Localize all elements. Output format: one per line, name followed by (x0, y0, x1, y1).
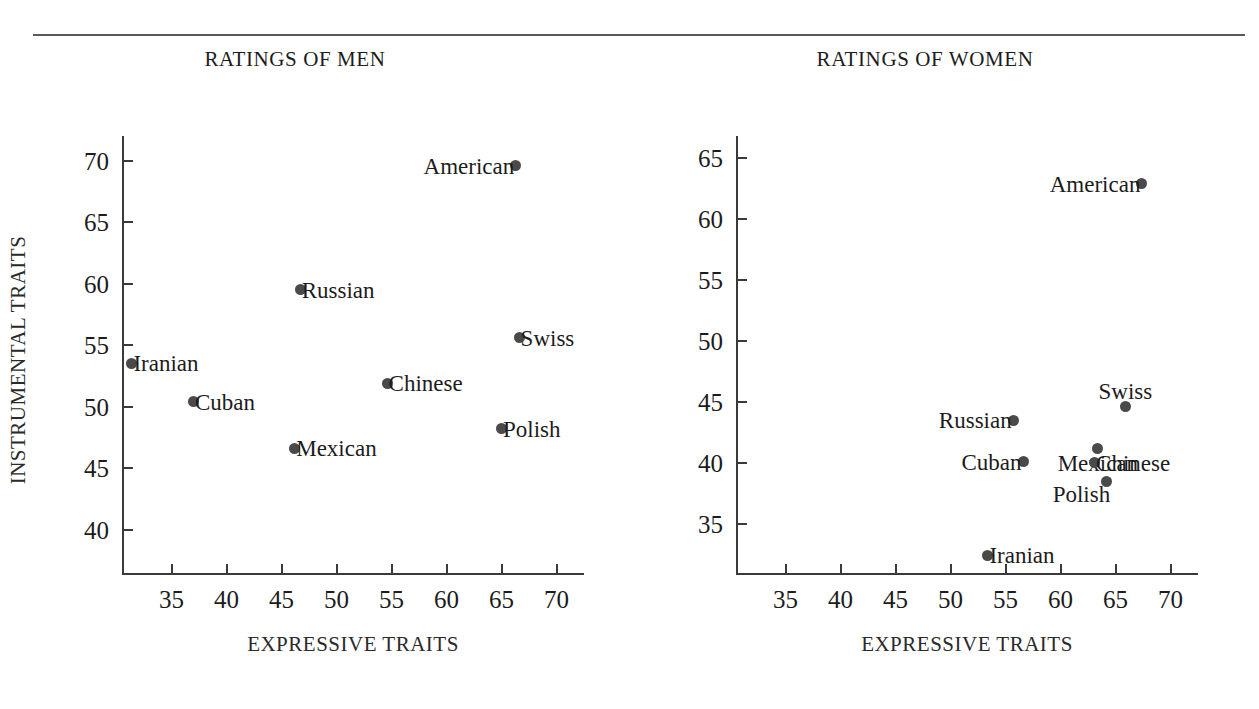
x-tick-label-60-men: 60 (434, 587, 459, 612)
x-axis-title-men: EXPRESSIVE TRAITS (122, 632, 584, 657)
chart-title-men: RATINGS OF MEN (0, 47, 590, 72)
data-point-label-american-women: American (1050, 172, 1141, 195)
data-point-label-cuban-women: Cuban (962, 450, 1022, 473)
y-tick-50-men: 50 (122, 406, 133, 408)
y-tick-55-men: 55 (122, 344, 133, 346)
x-tick-label-55-women: 55 (993, 587, 1018, 612)
x-tick-35-men: 35 (171, 564, 173, 575)
y-tick-55-women: 55 (736, 279, 747, 281)
data-point-label-swiss-men: Swiss (521, 326, 575, 349)
x-tick-60-men: 60 (446, 564, 448, 575)
data-point-label-polish-men: Polish (503, 417, 561, 440)
data-point-russian-men[interactable]: Russian (295, 284, 306, 295)
x-tick-label-65-women: 65 (1103, 587, 1128, 612)
x-tick-label-55-men: 55 (379, 587, 404, 612)
y-tick-label-65-men: 65 (84, 210, 109, 235)
data-point-swiss-men[interactable]: Swiss (514, 332, 525, 343)
y-tick-label-55-men: 55 (84, 333, 109, 358)
x-tick-60-women: 60 (1060, 564, 1062, 575)
chart-title-women: RATINGS OF WOMEN (620, 47, 1230, 72)
x-tick-label-45-women: 45 (883, 587, 908, 612)
x-tick-50-women: 50 (950, 564, 952, 575)
data-point-mexican-men[interactable]: Mexican (289, 443, 300, 454)
y-tick-label-65-women: 65 (698, 145, 723, 170)
x-tick-50-men: 50 (336, 564, 338, 575)
data-point-iranian-women[interactable]: Iranian (982, 550, 993, 561)
data-point-cuban-women[interactable]: Cuban (1018, 456, 1029, 467)
y-tick-label-40-men: 40 (84, 517, 109, 542)
y-tick-40-men: 40 (122, 529, 133, 531)
x-tick-65-women: 65 (1115, 564, 1117, 575)
y-axis-line-women (736, 136, 738, 575)
data-point-polish-men[interactable]: Polish (496, 423, 507, 434)
x-tick-45-women: 45 (895, 564, 897, 575)
x-tick-label-35-women: 35 (773, 587, 798, 612)
y-tick-65-men: 65 (122, 221, 133, 223)
x-tick-label-35-men: 35 (159, 587, 184, 612)
x-axis-title-women: EXPRESSIVE TRAITS (736, 632, 1198, 657)
data-point-swiss-women[interactable]: Swiss (1120, 401, 1131, 412)
data-point-american-men[interactable]: American (510, 160, 521, 171)
x-tick-label-40-men: 40 (214, 587, 239, 612)
y-tick-label-50-men: 50 (84, 394, 109, 419)
x-tick-70-men: 70 (556, 564, 558, 575)
x-tick-40-women: 40 (840, 564, 842, 575)
plot-area-men: 404550556065703540455055606570AmericanRu… (122, 136, 584, 575)
data-point-russian-women[interactable]: Russian (1008, 415, 1019, 426)
x-tick-65-men: 65 (501, 564, 503, 575)
x-tick-label-40-women: 40 (828, 587, 853, 612)
y-tick-label-35-women: 35 (698, 511, 723, 536)
data-point-american-women[interactable]: American (1136, 178, 1147, 189)
data-point-label-polish-women: Polish (1053, 483, 1111, 506)
y-tick-label-40-women: 40 (698, 450, 723, 475)
y-tick-label-70-men: 70 (84, 148, 109, 173)
x-tick-label-60-women: 60 (1048, 587, 1073, 612)
y-tick-label-50-women: 50 (698, 328, 723, 353)
data-point-label-mexican-men: Mexican (296, 437, 376, 460)
y-tick-label-60-women: 60 (698, 206, 723, 231)
x-tick-label-45-men: 45 (269, 587, 294, 612)
data-point-label-chinese-men: Chinese (389, 372, 463, 395)
x-tick-label-50-women: 50 (938, 587, 963, 612)
data-point-chinese-men[interactable]: Chinese (382, 378, 393, 389)
y-tick-label-60-men: 60 (84, 271, 109, 296)
y-tick-45-women: 45 (736, 401, 747, 403)
y-tick-50-women: 50 (736, 340, 747, 342)
data-point-label-russian-men: Russian (302, 278, 375, 301)
data-point-label-american-men: American (424, 154, 515, 177)
data-point-label-cuban-men: Cuban (195, 390, 255, 413)
x-tick-label-50-men: 50 (324, 587, 349, 612)
y-tick-35-women: 35 (736, 523, 747, 525)
y-tick-45-men: 45 (122, 467, 133, 469)
data-point-label-chinese-women: Chinese (1096, 451, 1170, 474)
y-axis-title-men: INSTRUMENTAL TRAITS (6, 236, 31, 485)
y-tick-label-55-women: 55 (698, 267, 723, 292)
x-tick-35-women: 35 (785, 564, 787, 575)
y-tick-60-women: 60 (736, 218, 747, 220)
x-tick-label-65-men: 65 (489, 587, 514, 612)
x-tick-55-men: 55 (391, 564, 393, 575)
x-axis-line-men (122, 573, 584, 575)
y-tick-65-women: 65 (736, 157, 747, 159)
chart-panel-women: RATINGS OF WOMEN 35404550556065354045505… (620, 0, 1259, 709)
x-tick-label-70-men: 70 (544, 587, 569, 612)
data-point-label-swiss-women: Swiss (1099, 380, 1153, 403)
data-point-label-russian-women: Russian (939, 409, 1012, 432)
x-tick-label-70-women: 70 (1158, 587, 1183, 612)
data-point-polish-women[interactable]: Polish (1101, 476, 1112, 487)
data-point-label-iranian-men: Iranian (133, 352, 198, 375)
data-point-cuban-men[interactable]: Cuban (188, 396, 199, 407)
y-tick-70-men: 70 (122, 160, 133, 162)
data-point-iranian-men[interactable]: Iranian (126, 358, 137, 369)
data-point-label-iranian-women: Iranian (989, 544, 1054, 567)
plot-area-women: 354045505560653540455055606570AmericanSw… (736, 136, 1198, 575)
x-tick-45-men: 45 (281, 564, 283, 575)
data-point-chinese-women[interactable]: Chinese (1089, 457, 1100, 468)
y-tick-40-women: 40 (736, 462, 747, 464)
y-axis-line-men (122, 136, 124, 575)
x-tick-40-men: 40 (226, 564, 228, 575)
y-tick-label-45-men: 45 (84, 456, 109, 481)
chart-panel-men: RATINGS OF MEN 4045505560657035404550556… (0, 0, 640, 709)
y-tick-label-45-women: 45 (698, 389, 723, 414)
x-tick-70-women: 70 (1170, 564, 1172, 575)
